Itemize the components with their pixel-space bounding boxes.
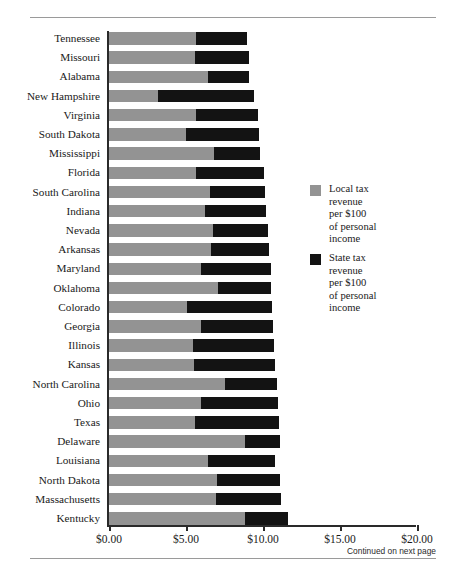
y-axis-label-tennessee: Tennessee: [0, 31, 100, 45]
stacked-bar: [109, 512, 288, 524]
stacked-bar: [109, 493, 281, 505]
x-tick-label-3: $15.00: [324, 533, 356, 545]
x-tick-label-2: $10.00: [247, 533, 279, 545]
bar-segment-local: [109, 147, 214, 159]
bar-segment-state: [210, 186, 265, 198]
bar-segment-state: [208, 71, 249, 83]
stacked-bar: [109, 51, 249, 63]
bar-segment-state: [195, 51, 249, 63]
table-row: Louisiana: [0, 452, 458, 471]
bar-segment-state: [158, 90, 254, 102]
bar-segment-state: [195, 416, 279, 428]
x-tick-mark: [263, 525, 265, 531]
table-row: Illinois: [0, 337, 458, 356]
bar-segment-local: [109, 378, 225, 390]
legend-local-line-2: revenue: [329, 196, 450, 209]
stacked-bar: [109, 339, 274, 351]
y-axis-label-missouri: Missouri: [0, 50, 100, 64]
legend-state-line-5: income: [329, 302, 450, 315]
x-tick-mark: [340, 525, 342, 531]
stacked-bar: [109, 474, 280, 486]
legend-state-line-4: of personal: [329, 290, 450, 303]
bar-segment-state: [218, 282, 271, 294]
stacked-bar: [109, 205, 266, 217]
y-axis-label-florida: Florida: [0, 165, 100, 179]
legend-state-line-3: per $100: [329, 277, 450, 290]
bar-segment-local: [109, 71, 208, 83]
y-axis-label-kansas: Kansas: [0, 357, 100, 371]
table-row: Texas: [0, 414, 458, 433]
legend-local-line-1: Local tax: [329, 183, 450, 196]
x-tick-mark: [109, 525, 111, 531]
table-row: Florida: [0, 164, 458, 183]
bar-segment-state: [196, 167, 264, 179]
y-axis-label-illinois: Illinois: [0, 338, 100, 352]
legend-local-line-3: per $100: [329, 208, 450, 221]
bar-segment-state: [193, 339, 274, 351]
stacked-bar: [109, 435, 280, 447]
table-row: Massachusetts: [0, 491, 458, 510]
bar-segment-state: [187, 301, 272, 313]
bar-segment-state: [196, 32, 247, 44]
y-axis-label-maryland: Maryland: [0, 261, 100, 275]
stacked-bar: [109, 186, 265, 198]
bar-segment-local: [109, 493, 216, 505]
bar-segment-local: [109, 512, 245, 524]
stacked-bar: [109, 263, 271, 275]
top-divider-rule: [30, 17, 436, 18]
y-axis-label-nevada: Nevada: [0, 223, 100, 237]
bar-segment-local: [109, 186, 210, 198]
bar-segment-state: [196, 109, 258, 121]
continued-footnote: Continued on next page: [347, 546, 436, 556]
y-axis-label-kentucky: Kentucky: [0, 511, 100, 525]
y-axis-label-texas: Texas: [0, 415, 100, 429]
y-axis-label-georgia: Georgia: [0, 319, 100, 333]
stacked-bar: [109, 359, 275, 371]
bar-segment-local: [109, 243, 211, 255]
stacked-bar: [109, 224, 268, 236]
table-row: Kentucky: [0, 510, 458, 529]
stacked-bar: [109, 109, 258, 121]
y-axis-label-south-dakota: South Dakota: [0, 127, 100, 141]
table-row: South Dakota: [0, 126, 458, 145]
bar-segment-state: [214, 147, 259, 159]
y-axis-label-massachusetts: Massachusetts: [0, 492, 100, 506]
y-axis-label-delaware: Delaware: [0, 434, 100, 448]
legend-entry-state-tax: State tax revenue per $100 of personal i…: [310, 252, 450, 315]
table-row: Mississippi: [0, 145, 458, 164]
bar-segment-local: [109, 167, 196, 179]
x-tick-mark: [186, 525, 188, 531]
bar-segment-state: [213, 224, 268, 236]
bar-segment-state: [225, 378, 277, 390]
bar-segment-local: [109, 109, 196, 121]
stacked-bar: [109, 416, 279, 428]
bottom-divider-rule: [30, 558, 436, 559]
y-axis-label-south-carolina: South Carolina: [0, 185, 100, 199]
bar-segment-state: [216, 493, 281, 505]
y-axis-label-arkansas: Arkansas: [0, 242, 100, 256]
y-axis-label-ohio: Ohio: [0, 396, 100, 410]
y-axis-label-colorado: Colorado: [0, 300, 100, 314]
table-row: North Dakota: [0, 472, 458, 491]
table-row: Virginia: [0, 107, 458, 126]
bar-segment-local: [109, 416, 195, 428]
bar-segment-state: [201, 263, 270, 275]
legend-local-line-4: of personal: [329, 221, 450, 234]
table-row: North Carolina: [0, 376, 458, 395]
bar-segment-state: [245, 435, 280, 447]
bar-segment-state: [217, 474, 280, 486]
bar-segment-local: [109, 128, 186, 140]
legend-swatch-state-icon: [310, 254, 321, 265]
table-row: Ohio: [0, 395, 458, 414]
stacked-bar: [109, 167, 264, 179]
table-row: Kansas: [0, 356, 458, 375]
bar-segment-local: [109, 339, 193, 351]
legend-label-state: State tax revenue per $100 of personal i…: [329, 252, 450, 315]
chart-legend: Local tax revenue per $100 of personal i…: [310, 183, 450, 321]
x-tick-label-4: $20.00: [401, 533, 433, 545]
bar-segment-state: [211, 243, 269, 255]
stacked-bar: [109, 301, 272, 313]
bar-segment-state: [205, 205, 266, 217]
chart-page: TennesseeMissouriAlabamaNew HampshireVir…: [0, 0, 458, 571]
stacked-bar: [109, 320, 273, 332]
